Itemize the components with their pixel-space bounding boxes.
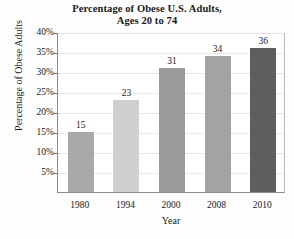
- bar-value-label: 23: [106, 88, 146, 98]
- y-tick-label: 20%: [20, 108, 54, 118]
- plot-area: 1523313436: [57, 33, 285, 193]
- x-axis-title: Year: [57, 215, 285, 226]
- y-tick-label: 40%: [20, 28, 54, 38]
- y-tick-label: 15%: [20, 128, 54, 138]
- bar-value-label: 31: [152, 56, 192, 66]
- bar[interactable]: [113, 100, 139, 192]
- y-tick-label: 10%: [20, 148, 54, 158]
- bar-value-label: 34: [198, 44, 238, 54]
- x-tick-label: 2008: [195, 200, 239, 210]
- y-tick-label: 35%: [20, 48, 54, 58]
- bar-chart: Percentage of Obese U.S. Adults, Ages 20…: [0, 0, 294, 239]
- bar[interactable]: [68, 132, 94, 192]
- gridline: [58, 33, 284, 34]
- bar[interactable]: [159, 68, 185, 192]
- x-tick-label: 1994: [103, 200, 147, 210]
- x-tick-label: 2010: [240, 200, 284, 210]
- y-tick-label: 25%: [20, 88, 54, 98]
- bar[interactable]: [250, 48, 276, 192]
- chart-title: Percentage of Obese U.S. Adults, Ages 20…: [0, 3, 294, 26]
- chart-title-line-2: Ages 20 to 74: [0, 15, 294, 27]
- y-tick-label: 30%: [20, 68, 54, 78]
- bar-value-label: 36: [243, 36, 283, 46]
- y-tick-label: 5%: [20, 168, 54, 178]
- x-tick-label: 1980: [58, 200, 102, 210]
- bar[interactable]: [205, 56, 231, 192]
- chart-title-line-1: Percentage of Obese U.S. Adults,: [0, 3, 294, 15]
- x-tick-label: 2000: [149, 200, 193, 210]
- bar-value-label: 15: [61, 120, 101, 130]
